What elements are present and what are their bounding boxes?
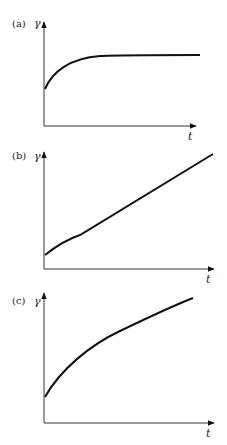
- panel-b: [44, 152, 214, 269]
- panel-b-x-axis-label: t: [206, 274, 210, 285]
- panel-b-curve: [45, 154, 213, 255]
- panel-c-label: (c): [12, 296, 25, 306]
- panel-a-x-axis-label: t: [188, 131, 192, 142]
- panel-a-curve: [45, 55, 200, 89]
- panel-a-y-axis-label: γ: [34, 18, 41, 29]
- panel-c: [44, 293, 214, 423]
- panel-c-x-axis-label: t: [206, 428, 210, 439]
- panel-b-y-axis-label: γ: [34, 151, 41, 162]
- figure-three-panel-gamma-vs-t: (a) γ t (b) γ t (c) γ t: [0, 0, 227, 445]
- panel-a: [44, 22, 200, 126]
- plot-canvas: [0, 0, 227, 445]
- panel-b-label: (b): [12, 151, 26, 161]
- panel-c-y-axis-label: γ: [34, 296, 41, 307]
- panel-c-curve: [45, 298, 193, 397]
- panel-a-label: (a): [12, 19, 26, 29]
